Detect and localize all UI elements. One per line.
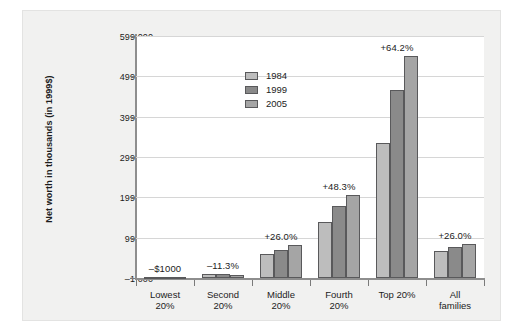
y-axis-title: Net worth in thousands (in 1999$) <box>44 59 54 239</box>
x-axis-category-label: Allfamilies <box>415 289 495 311</box>
legend-swatch-1984 <box>245 72 258 80</box>
bar-1984 <box>434 251 448 278</box>
y-axis-tick <box>130 157 135 158</box>
y-axis-tick <box>130 36 135 37</box>
gridline <box>136 157 484 158</box>
x-axis-category-line: families <box>415 300 495 311</box>
chart-figure: Net worth in thousands (in 1999$) –1 000… <box>0 0 521 335</box>
y-axis-tick <box>130 197 135 198</box>
bar-1999 <box>448 247 462 278</box>
x-axis-tick <box>368 280 369 286</box>
gridline <box>136 36 484 37</box>
bar-1984 <box>318 222 332 278</box>
legend-item: 2005 <box>245 98 315 110</box>
legend-label: 2005 <box>266 98 287 109</box>
y-axis-tick <box>130 117 135 118</box>
bar-2005 <box>404 56 418 278</box>
bar-2005 <box>462 244 476 278</box>
x-axis-tick <box>194 280 195 286</box>
bar-1999 <box>332 206 346 278</box>
bar-1984 <box>376 143 390 278</box>
y-axis-tick <box>130 278 135 279</box>
bar-1984 <box>144 277 158 279</box>
bar-value-label: +48.3% <box>299 181 379 192</box>
bar-1999 <box>274 250 288 278</box>
x-axis-tick <box>136 280 137 286</box>
legend-swatch-1999 <box>245 86 258 94</box>
bar-1999 <box>390 90 404 278</box>
x-axis-tick <box>426 280 427 286</box>
bar-1984 <box>202 274 216 278</box>
y-axis-tick <box>130 238 135 239</box>
legend: 198419992005 <box>245 70 315 112</box>
x-axis-tick <box>252 280 253 286</box>
bar-2005 <box>346 195 360 278</box>
x-axis-tick <box>484 280 485 286</box>
gridline <box>136 117 484 118</box>
legend-label: 1999 <box>266 84 287 95</box>
gridline <box>136 197 484 198</box>
legend-swatch-2005 <box>245 100 258 108</box>
bar-value-label: +26.0% <box>415 230 495 241</box>
bar-2005 <box>172 277 186 279</box>
legend-item: 1999 <box>245 84 315 96</box>
legend-label: 1984 <box>266 70 287 81</box>
bar-1999 <box>158 277 172 279</box>
bar-value-label: –11.3% <box>183 260 263 271</box>
bar-2005 <box>288 245 302 278</box>
legend-item: 1984 <box>245 70 315 82</box>
x-axis-category-line: 20% <box>299 300 379 311</box>
x-axis-tick <box>310 280 311 286</box>
bar-value-label: +26.0% <box>241 231 321 242</box>
bar-1999 <box>216 274 230 278</box>
y-axis-tick <box>130 76 135 77</box>
x-axis-category-line: All <box>415 289 495 300</box>
bar-value-label: +64.2% <box>357 42 437 53</box>
bar-2005 <box>230 275 244 278</box>
